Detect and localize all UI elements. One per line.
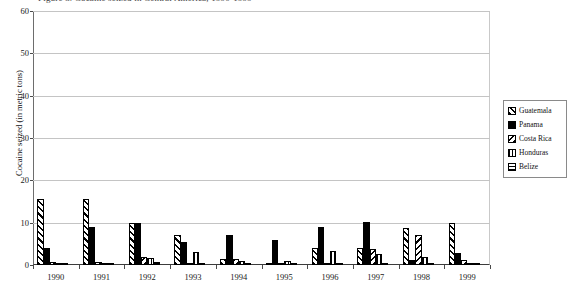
y-tick-label-40: 40 — [3, 91, 29, 101]
y-tick-mark-40 — [30, 96, 33, 97]
bar-panama-1995 — [272, 240, 278, 265]
y-tick-mark-10 — [30, 223, 33, 224]
bar-belize-1993 — [199, 263, 205, 265]
x-axis-label-1993: 1993 — [184, 272, 201, 282]
x-tick-mark-1992 — [170, 265, 171, 269]
x-tick-mark-1991 — [124, 265, 125, 269]
gridline-50 — [33, 53, 490, 54]
y-tick-label-50: 50 — [3, 48, 29, 58]
legend-item-honduras: Honduras — [508, 146, 563, 160]
bar-panama-1991 — [89, 227, 95, 265]
legend-item-belize: Belize — [508, 160, 563, 174]
x-tick-mark-1994 — [262, 265, 263, 269]
x-axis-label-1990: 1990 — [47, 272, 64, 282]
x-tick-mark-1993 — [216, 265, 217, 269]
legend-label-costa-rica: Costa Rica — [519, 135, 552, 143]
x-tick-mark-1990 — [79, 265, 80, 269]
gridline-60 — [33, 11, 490, 12]
y-tick-label-20: 20 — [3, 175, 29, 185]
x-tick-mark-1997 — [399, 265, 400, 269]
legend-label-honduras: Honduras — [519, 149, 548, 157]
x-axis-label-1994: 1994 — [230, 272, 247, 282]
bar-panama-1996 — [318, 227, 324, 265]
bar-belize-1990 — [62, 263, 68, 265]
legend-item-guatemala: Guatemala — [508, 104, 563, 118]
bar-belize-1997 — [382, 263, 388, 265]
bar-belize-1999 — [473, 263, 479, 265]
x-axis-label-1996: 1996 — [322, 272, 339, 282]
gridline-20 — [33, 180, 490, 181]
x-axis-label-1992: 1992 — [139, 272, 156, 282]
x-tick-mark-1995 — [307, 265, 308, 269]
bar-belize-1995 — [291, 263, 297, 265]
x-tick-mark-1998 — [444, 265, 445, 269]
legend-swatch-honduras-icon — [508, 149, 516, 157]
bar-belize-1998 — [428, 263, 434, 265]
bar-belize-1992 — [154, 262, 160, 265]
x-axis-label-1998: 1998 — [413, 272, 430, 282]
gridline-40 — [33, 96, 490, 97]
y-tick-label-0: 0 — [3, 260, 29, 270]
y-tick-mark-50 — [30, 53, 33, 54]
legend-label-guatemala: Guatemala — [519, 107, 551, 115]
x-tick-mark-origin — [33, 265, 34, 269]
legend: GuatemalaPanamaCosta RicaHondurasBelize — [503, 100, 567, 178]
legend-label-belize: Belize — [519, 163, 538, 171]
x-tick-mark-1999 — [490, 265, 491, 269]
y-tick-label-60: 60 — [3, 6, 29, 16]
plot-area: 0102030405060 — [33, 11, 490, 265]
x-axis-label-1991: 1991 — [93, 272, 110, 282]
bar-belize-1994 — [245, 263, 251, 265]
legend-swatch-guatemala-icon — [508, 107, 516, 115]
legend-item-panama: Panama — [508, 118, 563, 132]
x-tick-mark-1996 — [353, 265, 354, 269]
cocaine-seizures-bar-chart: Figure 3. Cocaine seized in Central Amer… — [0, 0, 570, 285]
clipped-figure-caption: Figure 3. Cocaine seized in Central Amer… — [38, 0, 458, 3]
legend-swatch-panama-icon — [508, 121, 516, 129]
y-tick-label-10: 10 — [3, 218, 29, 228]
legend-swatch-costa-rica-icon — [508, 135, 516, 143]
x-axis-label-1999: 1999 — [459, 272, 476, 282]
legend-item-costa-rica: Costa Rica — [508, 132, 563, 146]
bar-belize-1991 — [108, 263, 114, 265]
y-tick-label-30: 30 — [3, 133, 29, 143]
y-tick-mark-30 — [30, 138, 33, 139]
x-axis-label-1995: 1995 — [276, 272, 293, 282]
legend-label-panama: Panama — [519, 121, 543, 129]
gridline-30 — [33, 138, 490, 139]
y-tick-mark-20 — [30, 180, 33, 181]
bar-belize-1996 — [336, 263, 342, 265]
gridline-10 — [33, 223, 490, 224]
x-axis-label-1997: 1997 — [367, 272, 384, 282]
bar-panama-1993 — [181, 242, 187, 265]
legend-swatch-belize-icon — [508, 163, 516, 171]
y-tick-mark-60 — [30, 11, 33, 12]
